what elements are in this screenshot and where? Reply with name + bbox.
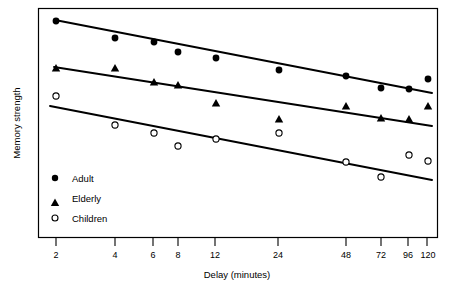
data-point-children <box>53 93 59 99</box>
x-axis-tick-labels: 2 4 6 8 12 24 48 72 96 120 <box>53 250 435 260</box>
data-point-children <box>406 152 412 158</box>
data-point-elderly <box>174 81 182 89</box>
data-point-adult <box>425 76 432 83</box>
x-tick-label-2: 6 <box>150 250 155 260</box>
x-tick-label-3: 8 <box>175 250 180 260</box>
data-point-elderly <box>275 115 283 123</box>
data-point-adult <box>53 18 60 25</box>
data-point-adult <box>151 39 158 46</box>
legend-label-children: Children <box>72 213 107 224</box>
legend-label-adult: Adult <box>72 173 94 184</box>
legend-marker-adult-icon <box>52 175 58 181</box>
y-axis-title: Memory strength <box>11 87 22 158</box>
data-point-adult <box>343 73 350 80</box>
x-tick-label-6: 48 <box>341 250 351 260</box>
x-tick-label-1: 4 <box>112 250 117 260</box>
data-point-children <box>112 122 118 128</box>
x-tick-label-5: 24 <box>273 250 283 260</box>
data-point-children <box>425 158 431 164</box>
x-tick-label-4: 12 <box>210 250 220 260</box>
data-point-elderly <box>342 102 350 110</box>
x-axis-title: Delay (minutes) <box>204 269 271 280</box>
data-point-adult <box>276 67 283 74</box>
x-tick-label-8: 96 <box>403 250 413 260</box>
fit-line-adult <box>55 20 432 93</box>
data-point-children <box>378 174 384 180</box>
fit-lines <box>50 20 432 180</box>
legend-marker-elderly-icon <box>51 199 59 207</box>
chart-legend: Adult Elderly Children <box>51 173 108 224</box>
data-point-children <box>343 159 349 165</box>
data-point-elderly <box>424 102 432 110</box>
data-point-children <box>276 130 282 136</box>
data-point-children <box>175 143 181 149</box>
data-point-adult <box>175 49 182 56</box>
series-elderly-points <box>52 64 432 123</box>
data-point-adult <box>378 85 385 92</box>
data-point-children <box>151 130 157 136</box>
x-axis-ticks <box>56 238 427 246</box>
x-tick-label-9: 120 <box>420 250 435 260</box>
legend-marker-children-icon <box>52 215 58 221</box>
data-point-adult <box>213 55 220 62</box>
data-point-elderly <box>212 99 220 107</box>
x-tick-label-0: 2 <box>53 250 58 260</box>
scatter-plot-svg: 2 4 6 8 12 24 48 72 96 120 Delay (minute… <box>0 0 455 285</box>
data-point-children <box>213 136 219 142</box>
data-point-adult <box>406 86 413 93</box>
data-point-elderly <box>405 115 413 123</box>
x-tick-label-7: 72 <box>376 250 386 260</box>
legend-label-elderly: Elderly <box>72 193 101 204</box>
chart-figure: 2 4 6 8 12 24 48 72 96 120 Delay (minute… <box>0 0 455 285</box>
data-point-elderly <box>111 64 119 72</box>
data-point-adult <box>112 35 119 42</box>
series-children-points <box>53 93 431 180</box>
